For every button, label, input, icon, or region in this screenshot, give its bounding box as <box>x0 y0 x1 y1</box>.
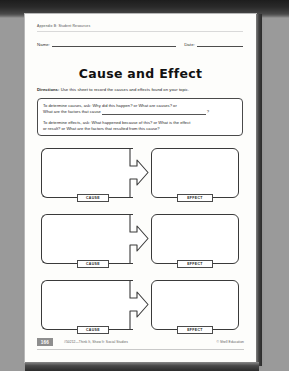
effect-prompt-line1: To determine effects, ask: What happened… <box>43 120 190 125</box>
effect-tag: EFFECT <box>177 260 213 268</box>
cause-effect-organizer: CAUSE EFFECT CAUSE EFFECT <box>37 144 243 342</box>
directions-prefix: Directions: <box>37 87 59 92</box>
cause-prompt-line2: What are the factors that cause <box>43 109 101 114</box>
footer-copyright: © Shell Education <box>216 340 244 344</box>
effect-box[interactable] <box>151 148 239 198</box>
effect-tag: EFFECT <box>177 326 213 334</box>
appendix-label: Appendix B: Student Resources <box>37 24 90 28</box>
worksheet-page: Appendix B: Student Resources Name: Date… <box>25 14 256 362</box>
cause-prompt-line1: To determine causes, ask: Why did this h… <box>43 103 177 108</box>
page-bottom-edge-shadow <box>25 362 259 371</box>
cause-tag: CAUSE <box>77 326 109 334</box>
name-label: Name: <box>37 42 50 48</box>
name-date-row: Name: Date: <box>37 38 244 47</box>
header-divider <box>37 31 243 32</box>
cause-box[interactable] <box>41 148 133 198</box>
directions-line: Directions: Use this sheet to record the… <box>37 87 245 92</box>
footer-divider <box>37 349 244 350</box>
directions-text: Use this sheet to record the causes and … <box>59 87 189 92</box>
cause-prompt: To determine causes, ask: Why did this h… <box>43 103 237 115</box>
date-input-line[interactable] <box>197 39 243 47</box>
page-footer: 166 #50212—Think It, Show It: Social Stu… <box>37 338 244 350</box>
cause-box[interactable] <box>41 280 133 330</box>
effect-tag: EFFECT <box>177 194 213 202</box>
cause-tag: CAUSE <box>77 260 109 268</box>
prompt-box: To determine causes, ask: Why did this h… <box>37 98 243 136</box>
page-content: Appendix B: Student Resources Name: Date… <box>25 14 256 362</box>
organizer-row: CAUSE EFFECT <box>37 210 243 276</box>
organizer-row: CAUSE EFFECT <box>37 276 243 342</box>
effect-box[interactable] <box>151 280 239 330</box>
page-title: Cause and Effect <box>25 66 256 81</box>
cause-prompt-blank[interactable] <box>102 110 206 115</box>
effect-prompt: To determine effects, ask: What happened… <box>43 120 237 132</box>
page-right-edge-shadow <box>256 14 262 366</box>
cause-box[interactable] <box>41 214 133 264</box>
name-input-line[interactable] <box>52 39 176 47</box>
date-label: Date: <box>184 42 195 48</box>
page-number-badge: 166 <box>37 338 53 346</box>
scanned-page-viewport: Appendix B: Student Resources Name: Date… <box>0 0 289 371</box>
effect-prompt-line2: or result? or What are the factors that … <box>43 126 160 131</box>
effect-box[interactable] <box>151 214 239 264</box>
organizer-row: CAUSE EFFECT <box>37 144 243 210</box>
footer-credit: #50212—Think It, Show It: Social Studies <box>64 340 128 344</box>
cause-tag: CAUSE <box>77 194 109 202</box>
cause-prompt-qmark: ? <box>207 109 209 114</box>
